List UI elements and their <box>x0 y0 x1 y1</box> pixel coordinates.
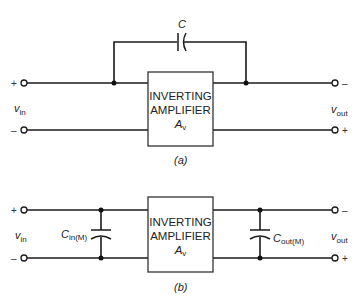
input-voltage-label: vin <box>15 229 27 244</box>
input-plus-sign: + <box>11 205 17 216</box>
amplifier-label-line1: INVERTING <box>149 216 211 228</box>
input-minus-sign: – <box>11 253 17 264</box>
input-terminal-top <box>21 207 27 213</box>
input-terminal-bottom <box>21 255 27 261</box>
output-cap-junction-top <box>258 208 263 213</box>
output-top-sign: – <box>342 78 348 89</box>
output-terminal-bottom <box>332 127 338 133</box>
output-voltage-label: vout <box>331 103 348 118</box>
output-miller-capacitor-label: Cout(M) <box>273 232 304 246</box>
output-terminal-bottom <box>332 255 338 261</box>
input-minus-sign: – <box>11 125 17 136</box>
output-terminal-top <box>332 207 338 213</box>
figure-a: + – vin C INVERTING AMPLIFIER Av – + vou… <box>11 18 348 166</box>
figure-b: + – vin Cin(M) INVERTING AMPLIFIER Av Co… <box>11 197 348 293</box>
caption-a: (a) <box>174 154 188 166</box>
feedback-capacitor-label: C <box>178 18 186 30</box>
amplifier-label-line1: INVERTING <box>149 90 211 102</box>
output-bottom-sign: + <box>342 125 348 136</box>
output-cap-junction-bottom <box>258 256 263 261</box>
amplifier-label-line2: AMPLIFIER <box>150 104 211 116</box>
amplifier-label-line2: AMPLIFIER <box>150 230 211 242</box>
output-terminal-top <box>332 80 338 86</box>
caption-b: (b) <box>174 281 188 293</box>
input-cap-junction-bottom <box>99 256 104 261</box>
input-voltage-label: vin <box>14 102 26 117</box>
junction-dot-right <box>244 81 249 86</box>
output-top-sign: – <box>342 205 348 216</box>
output-bottom-sign: + <box>342 253 348 264</box>
input-terminal-top <box>21 80 27 86</box>
junction-dot-left <box>112 81 117 86</box>
input-plus-sign: + <box>11 78 17 89</box>
input-terminal-bottom <box>21 127 27 133</box>
input-miller-capacitor-label: Cin(M) <box>61 228 88 242</box>
input-cap-junction-top <box>99 208 104 213</box>
circuit-diagram: + – vin C INVERTING AMPLIFIER Av – + vou… <box>0 0 363 303</box>
output-voltage-label: vout <box>331 230 348 245</box>
